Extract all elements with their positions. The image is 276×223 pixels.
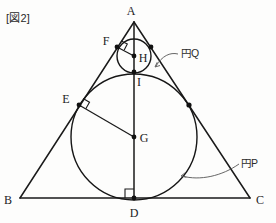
right-angle-at-f [121, 41, 127, 50]
point-label-g: G [140, 131, 149, 145]
point-label-a: A [127, 4, 136, 18]
point-label-e: E [62, 92, 69, 106]
annotation-label-circle-p: 円P [241, 157, 258, 169]
tangency-dot-p-ac [186, 102, 191, 107]
point-label-d: D [130, 206, 139, 220]
tangency-dot-p-ab [77, 103, 82, 108]
annotation-label-circle-q: 円Q [181, 47, 199, 59]
center-dot-h [132, 54, 137, 59]
point-label-h: H [139, 51, 148, 65]
geometry-diagram: A B C D E F G H I 円Q 円P [0, 0, 276, 223]
tangency-dot-p-q [132, 70, 137, 75]
tangency-dot-q-ab [115, 45, 120, 50]
center-dot-g [132, 135, 137, 140]
figure-container: [図2] [0, 0, 276, 223]
radius-segment-ge [79, 105, 134, 137]
point-label-b: B [4, 193, 12, 207]
tangency-dot-p-bc [132, 196, 137, 201]
point-label-f: F [103, 34, 110, 48]
point-label-c: C [256, 193, 264, 207]
point-label-i: I [137, 75, 141, 89]
tangency-dot-q-ac [149, 45, 154, 50]
